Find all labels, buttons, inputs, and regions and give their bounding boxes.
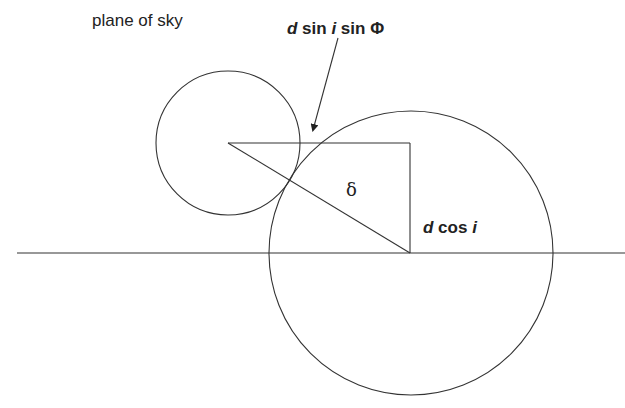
triangle-hypotenuse [228, 143, 410, 253]
pointer-arrow [313, 38, 338, 130]
diagram-canvas [0, 0, 625, 408]
formula-phi: Φ [370, 19, 384, 38]
formula-sin-2: sin [336, 19, 370, 38]
projected-separation-label: d sin i sin Φ [287, 20, 384, 37]
formula-cos: cos [433, 218, 472, 237]
line-of-sight-separation-label: d cos i [423, 219, 477, 236]
formula-d: d [423, 218, 433, 237]
formula-sin-1: sin [297, 19, 331, 38]
delta-label: δ [346, 181, 357, 199]
formula-d: d [287, 19, 297, 38]
formula-i: i [472, 218, 477, 237]
plane-of-sky-label: plane of sky [92, 12, 183, 29]
